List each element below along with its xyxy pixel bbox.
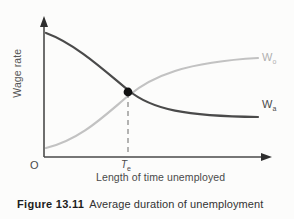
y-axis-title: Wage rate bbox=[12, 43, 23, 103]
curve-asking-wage bbox=[46, 33, 258, 117]
equilibrium-subscript: e bbox=[127, 165, 131, 172]
figure-caption-text: Average duration of unemployment bbox=[89, 198, 263, 210]
y-axis-arrow-icon bbox=[40, 16, 48, 27]
equilibrium-point-marker bbox=[124, 88, 133, 97]
figure-caption-number: Figure 13.11 bbox=[17, 198, 84, 210]
chart-plot-area: Wage rate Length of time unemployed O Te… bbox=[0, 0, 294, 186]
figure-caption: Figure 13.11Average duration of unemploy… bbox=[17, 198, 263, 210]
offer-wage-subscript: o bbox=[273, 58, 277, 65]
curve-label-offer-wage: Wo bbox=[262, 52, 277, 63]
chart-svg bbox=[0, 0, 294, 186]
equilibrium-time-label: Te bbox=[121, 160, 131, 170]
origin-label: O bbox=[30, 160, 39, 171]
curve-label-asking-wage: Wa bbox=[262, 99, 277, 110]
asking-wage-subscript: a bbox=[273, 105, 277, 112]
offer-wage-symbol: W bbox=[262, 51, 273, 63]
x-axis-title: Length of time unemployed bbox=[96, 172, 225, 183]
figure-container: Wage rate Length of time unemployed O Te… bbox=[0, 0, 294, 219]
asking-wage-symbol: W bbox=[262, 98, 273, 110]
x-axis-arrow-icon bbox=[261, 153, 272, 161]
